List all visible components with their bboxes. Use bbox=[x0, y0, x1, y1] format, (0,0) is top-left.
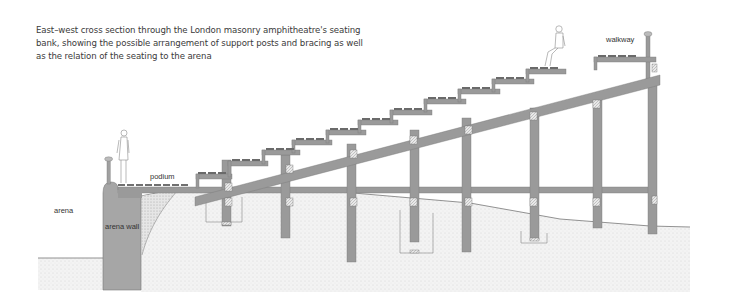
arena-label: arena bbox=[54, 206, 74, 215]
podium-deck bbox=[118, 184, 188, 186]
walkway-label: walkway bbox=[605, 35, 635, 44]
seated-figure bbox=[545, 26, 565, 66]
podium-label: podium bbox=[150, 172, 175, 181]
seating-steps bbox=[196, 57, 656, 188]
arena-wall: arena wall bbox=[103, 157, 141, 290]
standing-figure bbox=[117, 130, 129, 183]
arena-wall-label: arena wall bbox=[105, 222, 140, 231]
cross-section-diagram: arena wall arena podium walkway bbox=[0, 0, 731, 301]
diagonal-raker bbox=[195, 75, 660, 206]
